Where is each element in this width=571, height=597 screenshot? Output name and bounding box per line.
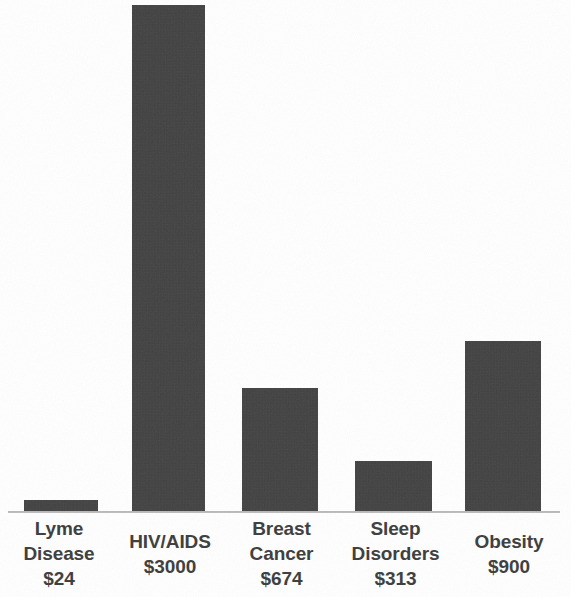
- x-label-hiv-aids: HIV/AIDS $3000: [113, 516, 227, 579]
- x-label-line-1: Obesity: [452, 529, 566, 554]
- bar-sleep-disorders: [355, 461, 432, 513]
- x-label-value: $900: [452, 554, 566, 579]
- x-label-line-2: Disease: [0, 541, 118, 566]
- x-label-value: $674: [225, 566, 338, 591]
- x-label-line-1: Sleep: [337, 516, 454, 541]
- x-label-value: $3000: [113, 554, 227, 579]
- x-axis-label-group: Lyme Disease $24 HIV/AIDS $3000 Breast C…: [0, 516, 571, 597]
- bar-obesity: [465, 341, 541, 513]
- x-label-line-2: Disorders: [337, 541, 454, 566]
- plot-area: [0, 0, 571, 513]
- x-label-line-1: Breast: [225, 516, 338, 541]
- bar-breast-cancer: [242, 388, 318, 513]
- x-label-line-2: Cancer: [225, 541, 338, 566]
- bar-hiv-aids: [132, 5, 205, 513]
- x-label-value: $24: [0, 566, 118, 591]
- x-label-obesity: Obesity $900: [452, 516, 566, 579]
- x-axis-baseline: [8, 511, 560, 513]
- x-label-value: $313: [337, 566, 454, 591]
- x-label-lyme-disease: Lyme Disease $24: [0, 516, 118, 591]
- x-label-line-1: Lyme: [0, 516, 118, 541]
- x-label-line-1: HIV/AIDS: [113, 529, 227, 554]
- x-label-sleep-disorders: Sleep Disorders $313: [337, 516, 454, 591]
- bar-chart: Lyme Disease $24 HIV/AIDS $3000 Breast C…: [0, 0, 571, 597]
- x-label-breast-cancer: Breast Cancer $674: [225, 516, 338, 591]
